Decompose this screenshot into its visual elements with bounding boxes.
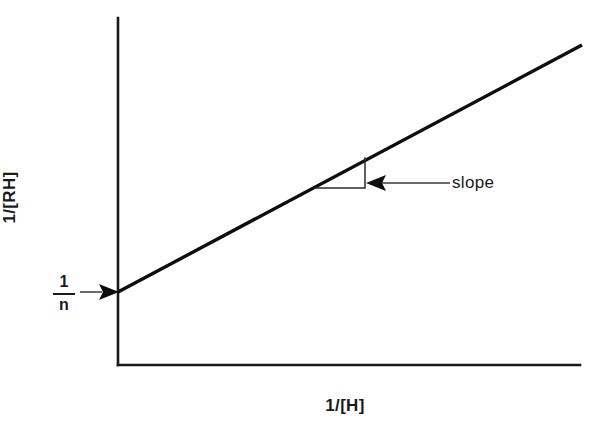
y-intercept-label: 1 n xyxy=(50,274,78,314)
x-axis-label: 1/[H] xyxy=(295,396,395,416)
plot-graphics xyxy=(0,0,602,441)
y-axis-label: 1/[RH] xyxy=(0,150,20,245)
data-line xyxy=(118,45,582,292)
slope-annotation-label: slope xyxy=(452,173,494,193)
figure-canvas: 1/[RH] 1/[H] 1 n slope xyxy=(0,0,602,441)
fraction-bar-icon xyxy=(53,293,75,295)
intercept-denominator: n xyxy=(50,296,78,314)
intercept-numerator: 1 xyxy=(50,274,78,292)
